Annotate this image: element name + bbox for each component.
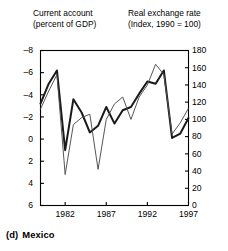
left-tick-label: 2 (17, 156, 33, 166)
caption-label: Mexico (22, 229, 54, 240)
figure-caption: (d)Mexico (6, 229, 55, 240)
left-tick-label: –4 (17, 90, 33, 100)
left-tick-label: –6 (17, 67, 33, 77)
figure-panel: Current account (percent of GDP) Real ex… (0, 0, 228, 251)
right-axis-title: Real exchange rate (Index, 1990 = 100) (128, 8, 201, 29)
right-tick-label: 20 (192, 183, 212, 193)
left-tick-label: –8 (17, 45, 33, 55)
right-tick-label: 80 (192, 131, 212, 141)
caption-id: (d) (6, 229, 18, 240)
right-tick-label: 100 (192, 114, 212, 124)
right-tick-label: 180 (192, 45, 212, 55)
left-tick-label: 6 (17, 200, 33, 210)
x-tick-label: 1992 (132, 209, 162, 219)
right-tick-label: 140 (192, 80, 212, 90)
data-series-layer (41, 64, 189, 174)
right-tick-label: 40 (192, 166, 212, 176)
right-tick-label: 60 (192, 149, 212, 159)
left-axis-title: Current account (percent of GDP) (33, 8, 96, 29)
right-tick-label: 120 (192, 97, 212, 107)
left-tick-label: 4 (17, 178, 33, 188)
x-tick-label: 1987 (91, 209, 121, 219)
left-tick-label: 0 (17, 134, 33, 144)
right-tick-label: 160 (192, 63, 212, 73)
x-tick-label: 1982 (50, 209, 80, 219)
x-tick-label: 1997 (174, 209, 204, 219)
left-tick-label: –2 (17, 112, 33, 122)
